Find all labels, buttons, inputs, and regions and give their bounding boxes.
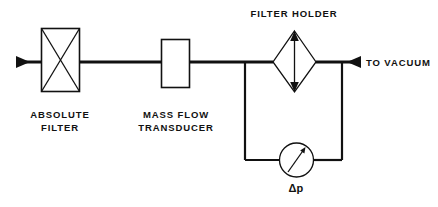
diagram-canvas: FILTER HOLDER TO VACUUM ABSOLUTE FILTER … [0, 0, 438, 207]
pressure-gauge-symbol [280, 143, 314, 177]
delta-p-label: Δp [288, 182, 303, 194]
rectangle-box-icon [162, 40, 190, 88]
absolute-filter-label-line2: FILTER [41, 122, 79, 133]
to-vacuum-label: TO VACUUM [366, 57, 431, 68]
filter-holder-label: FILTER HOLDER [251, 8, 338, 19]
vacuum-arrowhead-icon [347, 56, 361, 68]
absolute-filter-symbol [42, 29, 80, 92]
filter-holder-symbol [273, 31, 316, 92]
inlet-flow-arrow [16, 56, 41, 68]
absolute-filter-label-line1: ABSOLUTE [30, 109, 89, 120]
mass-flow-transducer-label-line1: MASS FLOW [143, 109, 209, 120]
mass-flow-transducer-label-line2: TRANSDUCER [138, 122, 214, 133]
